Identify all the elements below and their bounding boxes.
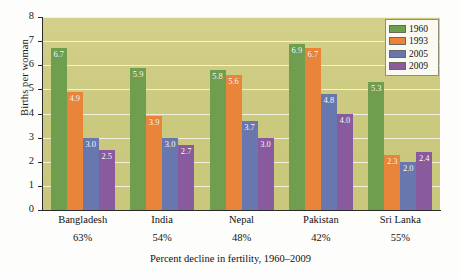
- bar[interactable]: 4.8: [321, 94, 337, 210]
- bar-value-label: 5.9: [130, 69, 146, 79]
- y-tick-mark: [38, 41, 42, 42]
- bar[interactable]: 3.9: [146, 116, 162, 210]
- legend-label: 1993: [409, 36, 428, 46]
- bar[interactable]: 5.8: [210, 70, 226, 210]
- x-axis-line: [42, 210, 441, 211]
- x-axis-title: Percent decline in fertility, 1960–2009: [0, 253, 461, 264]
- bar-value-label: 2.5: [99, 151, 115, 161]
- bar-value-label: 3.9: [146, 117, 162, 127]
- bar-value-label: 4.8: [321, 95, 337, 105]
- bar[interactable]: 4.9: [67, 92, 83, 210]
- y-tick-label: 7: [0, 34, 34, 45]
- bar-value-label: 4.0: [337, 115, 353, 125]
- bar-value-label: 5.3: [368, 83, 384, 93]
- x-category-percent: 55%: [350, 232, 450, 243]
- y-tick-label: 8: [0, 10, 34, 21]
- fertility-bar-chart: Births per woman 6.74.93.02.55.93.93.02.…: [0, 0, 461, 279]
- y-tick-label: 1: [0, 179, 34, 190]
- y-tick-mark: [38, 162, 42, 163]
- legend-swatch: [389, 62, 406, 70]
- bar-value-label: 5.6: [226, 76, 242, 86]
- bar-value-label: 6.7: [51, 49, 67, 59]
- y-tick-mark: [38, 89, 42, 90]
- y-tick-label: 4: [0, 107, 34, 118]
- bar-value-label: 3.0: [162, 139, 178, 149]
- bar-value-label: 3.7: [242, 122, 258, 132]
- bar-value-label: 5.8: [210, 71, 226, 81]
- bar[interactable]: 5.6: [226, 75, 242, 210]
- y-tick-mark: [38, 210, 42, 211]
- bar[interactable]: 3.0: [162, 138, 178, 210]
- y-tick-label: 5: [0, 82, 34, 93]
- bar-value-label: 6.7: [305, 49, 321, 59]
- plot-area: 6.74.93.02.55.93.93.02.75.85.63.73.06.96…: [43, 17, 440, 210]
- y-tick-mark: [38, 186, 42, 187]
- bar-group: 5.85.63.73.0: [210, 17, 274, 210]
- legend-item[interactable]: 1960: [389, 23, 435, 35]
- bar[interactable]: 2.5: [99, 150, 115, 210]
- bar-value-label: 3.0: [258, 139, 274, 149]
- bar[interactable]: 6.9: [289, 44, 305, 210]
- bar[interactable]: 6.7: [51, 48, 67, 210]
- bar-group: 5.93.93.02.7: [130, 17, 194, 210]
- bar-value-label: 4.9: [67, 93, 83, 103]
- y-tick-mark: [38, 17, 42, 18]
- y-tick-mark: [38, 114, 42, 115]
- bar[interactable]: 3.7: [242, 121, 258, 210]
- bar[interactable]: 3.0: [83, 138, 99, 210]
- legend-swatch: [389, 50, 406, 58]
- bar[interactable]: 2.0: [400, 162, 416, 210]
- legend-swatch: [389, 25, 406, 33]
- y-tick-label: 0: [0, 203, 34, 214]
- y-tick-label: 6: [0, 58, 34, 69]
- bar[interactable]: 4.0: [337, 114, 353, 211]
- legend-label: 1960: [409, 24, 428, 34]
- bar[interactable]: 2.4: [416, 152, 432, 210]
- bar[interactable]: 5.3: [368, 82, 384, 210]
- bar-value-label: 3.0: [83, 139, 99, 149]
- legend-label: 2005: [409, 49, 428, 59]
- bar[interactable]: 6.7: [305, 48, 321, 210]
- legend-swatch: [389, 37, 406, 45]
- bar-value-label: 2.0: [400, 163, 416, 173]
- bar[interactable]: 3.0: [258, 138, 274, 210]
- legend-item[interactable]: 2005: [389, 48, 435, 60]
- bar-value-label: 6.9: [289, 45, 305, 55]
- bar-value-label: 2.3: [384, 156, 400, 166]
- bar-group: 6.74.93.02.5: [51, 17, 115, 210]
- y-tick-mark: [38, 138, 42, 139]
- legend-item[interactable]: 1993: [389, 36, 435, 48]
- y-axis-line: [42, 17, 43, 211]
- bar-value-label: 2.4: [416, 153, 432, 163]
- bar-value-label: 2.7: [178, 146, 194, 156]
- y-tick-mark: [38, 65, 42, 66]
- legend-label: 2009: [409, 61, 428, 71]
- y-tick-label: 2: [0, 155, 34, 166]
- bar[interactable]: 2.3: [384, 155, 400, 210]
- y-tick-label: 3: [0, 131, 34, 142]
- bar[interactable]: 2.7: [178, 145, 194, 210]
- bar-group: 6.96.74.84.0: [289, 17, 353, 210]
- legend: 1960199320052009: [385, 19, 439, 76]
- legend-item[interactable]: 2009: [389, 61, 435, 73]
- x-category-label: Sri Lanka: [350, 214, 450, 225]
- bar[interactable]: 5.9: [130, 68, 146, 210]
